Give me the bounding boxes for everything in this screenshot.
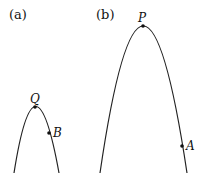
point-b-label: B: [52, 126, 62, 140]
panel-b-label: (b): [96, 7, 114, 22]
point-b-dot: [47, 131, 51, 135]
figure-canvas: (a) Q B (b) P A: [0, 0, 204, 181]
vertex-p-label: P: [137, 11, 147, 25]
panel-b: (b) P A: [96, 7, 195, 173]
vertex-q-label: Q: [30, 92, 40, 106]
point-a-label: A: [185, 139, 195, 153]
parabola-b: [100, 26, 187, 173]
panel-a: (a) Q B: [9, 7, 62, 173]
point-a-dot: [180, 144, 184, 148]
panel-a-label: (a): [9, 7, 27, 22]
